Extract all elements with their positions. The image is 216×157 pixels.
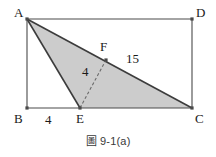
measure-label-be: 4 [45, 113, 52, 126]
vertex-dot-d [190, 17, 193, 20]
measure-label-fc: 15 [126, 52, 139, 65]
vertex-label-c: C [195, 112, 204, 125]
vertex-dot-b [25, 106, 28, 109]
figure-caption: 圖 9-1(a) [0, 134, 216, 148]
vertex-dot-c [190, 106, 193, 109]
vertex-label-d: D [196, 6, 205, 19]
vertex-label-f: F [100, 40, 107, 53]
vertex-dot-e [78, 106, 81, 109]
geometry-figure: A D B C E F 4 4 15 圖 9-1(a) [0, 0, 216, 157]
vertex-label-e: E [76, 112, 84, 125]
vertex-label-a: A [14, 6, 23, 19]
vertex-label-b: B [14, 112, 23, 125]
measure-label-ef: 4 [82, 65, 89, 78]
vertex-dot-a [25, 17, 28, 20]
vertex-dot-f [104, 58, 107, 61]
